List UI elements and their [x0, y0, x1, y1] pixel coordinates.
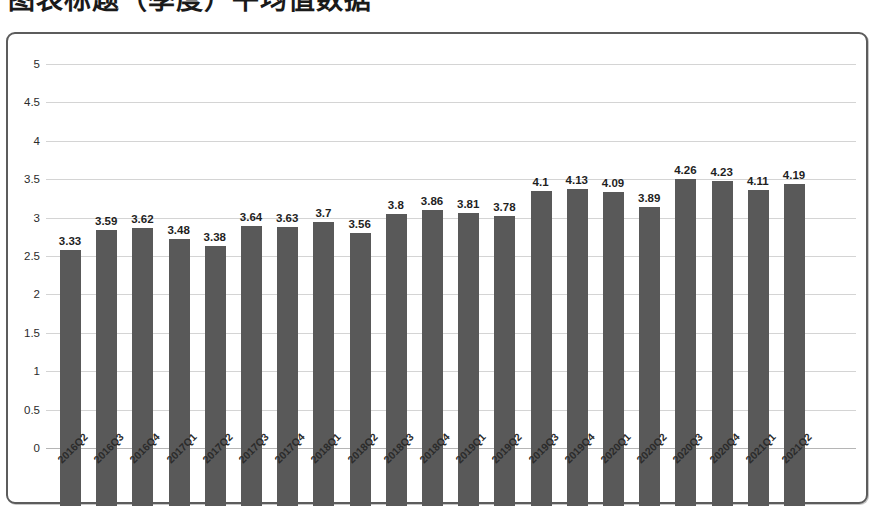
bar-value-label: 4.26 — [667, 164, 703, 176]
bar[interactable] — [169, 239, 190, 506]
bar-value-label: 3.78 — [486, 201, 522, 213]
bar-value-label: 3.38 — [197, 231, 233, 243]
bar-value-label: 4.13 — [559, 174, 595, 186]
bar-value-label: 3.8 — [378, 199, 414, 211]
bar-value-label: 3.56 — [342, 218, 378, 230]
y-axis-tick-label: 5 — [8, 58, 40, 70]
bar-value-label: 3.86 — [414, 195, 450, 207]
bar-value-label: 4.11 — [740, 175, 776, 187]
bar-value-label: 3.81 — [450, 198, 486, 210]
bar-value-label: 3.64 — [233, 211, 269, 223]
y-axis-tick-label: 0.5 — [8, 404, 40, 416]
bar-value-label: 3.62 — [124, 213, 160, 225]
y-axis-tick-label: 2 — [8, 288, 40, 300]
y-axis-tick-label: 0 — [8, 442, 40, 454]
bar-value-label: 3.59 — [88, 215, 124, 227]
y-axis-tick-label: 3 — [8, 212, 40, 224]
y-axis-tick-label: 3.5 — [8, 173, 40, 185]
bar-value-label: 3.7 — [305, 207, 341, 219]
bar[interactable] — [205, 246, 226, 506]
page-title: 图表标题（季度）平均值数据 — [8, 0, 372, 17]
y-axis-tick-label: 4 — [8, 135, 40, 147]
bar-value-label: 4.19 — [776, 169, 812, 181]
plot-area: 54.543.532.521.510.50 3.333.593.623.483.… — [8, 34, 870, 506]
bar-value-label: 4.1 — [523, 176, 559, 188]
bar-value-label: 4.09 — [595, 177, 631, 189]
y-axis-tick-label: 1 — [8, 365, 40, 377]
bar-value-label: 3.89 — [631, 192, 667, 204]
y-axis-tick-label: 1.5 — [8, 327, 40, 339]
bar-value-label: 3.33 — [52, 235, 88, 247]
chart-frame: 54.543.532.521.510.50 3.333.593.623.483.… — [6, 32, 868, 504]
y-axis-tick-label: 2.5 — [8, 250, 40, 262]
bar-value-label: 4.23 — [704, 166, 740, 178]
chart-title-strip: 图表标题（季度）平均值数据 — [0, 0, 880, 19]
bar-value-label: 3.48 — [161, 224, 197, 236]
y-axis-tick-label: 4.5 — [8, 96, 40, 108]
bar-value-label: 3.63 — [269, 212, 305, 224]
bar[interactable] — [60, 250, 81, 506]
